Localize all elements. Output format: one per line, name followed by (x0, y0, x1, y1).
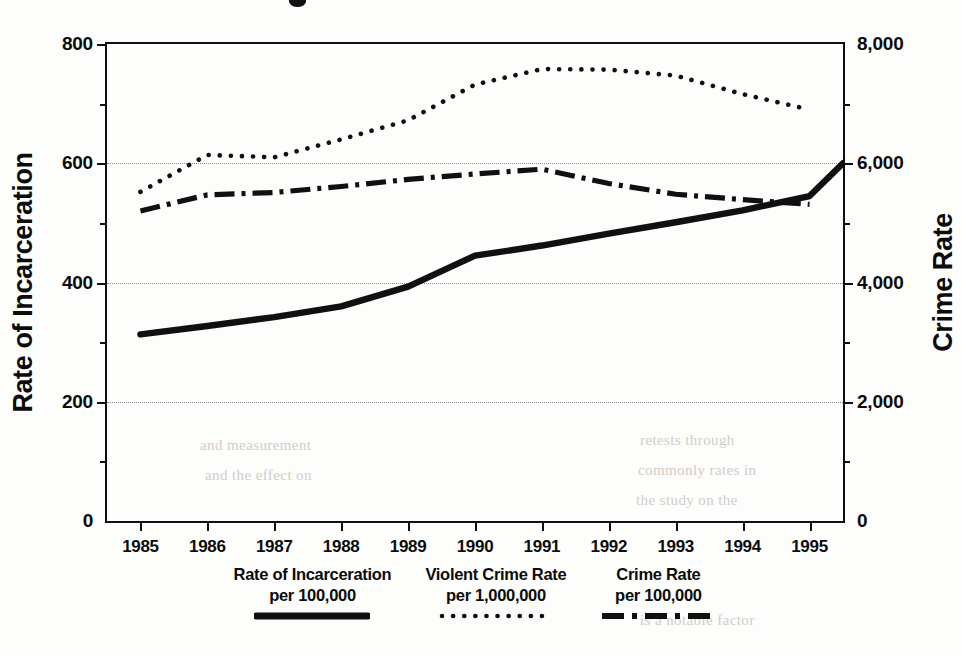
y-axis-right-title-text: Crime Rate (928, 213, 959, 352)
y-right-tick-5000 (843, 223, 850, 225)
legend-label-line2: per 100,000 (269, 586, 356, 605)
y-left-label-200: 200 (62, 391, 93, 413)
data-series-layer (107, 44, 843, 521)
y-left-tick-700 (100, 104, 107, 106)
y-right-tick-7000 (843, 104, 850, 106)
legend-label-line1: Crime Rate (616, 565, 700, 584)
x-label-1985: 1985 (122, 537, 159, 557)
x-label-1990: 1990 (457, 537, 494, 557)
y-left-tick-100 (100, 461, 107, 463)
legend-label-line1: Violent Crime Rate (425, 565, 566, 584)
y-axis-right-title: Crime Rate (926, 42, 960, 523)
y-left-tick-200 (97, 402, 107, 404)
y-left-label-800: 800 (62, 33, 93, 55)
x-tick-1992 (609, 521, 611, 531)
y-right-tick-3000 (843, 342, 850, 344)
x-label-1994: 1994 (724, 537, 761, 557)
series-rate-of-incarceration-line (140, 163, 843, 334)
x-tick-1991 (542, 521, 544, 531)
chart-legend: Rate of Incarceration per 100,000 Violen… (105, 565, 845, 621)
x-label-1991: 1991 (524, 537, 561, 557)
y-right-tick-2000 (843, 402, 853, 404)
legend-item-violent-crime-rate: Violent Crime Rate per 1,000,000 (425, 565, 566, 621)
y-right-label-4000: 4,000 (857, 272, 904, 294)
y-left-label-600: 600 (62, 152, 93, 174)
y-left-tick-500 (100, 223, 107, 225)
x-label-1988: 1988 (323, 537, 360, 557)
x-label-1989: 1989 (390, 537, 427, 557)
chart-figure: Rate of Incarceration Crime Rate 800 600… (0, 0, 962, 655)
y-right-label-6000: 6,000 (857, 152, 904, 174)
x-tick-1986 (207, 521, 209, 531)
series-crime-rate-line (140, 169, 809, 211)
y-right-tick-6000 (843, 163, 853, 165)
x-tick-1995 (810, 521, 812, 531)
series-violent-crime-rate-line (140, 69, 809, 192)
legend-swatch-solid (254, 611, 370, 621)
x-tick-1985 (140, 521, 142, 531)
y-right-tick-4000 (843, 283, 853, 285)
x-label-1992: 1992 (591, 537, 628, 557)
y-right-label-8000: 8,000 (857, 33, 904, 55)
y-axis-left-title-text: Rate of Incarceration (8, 152, 39, 412)
x-tick-1990 (475, 521, 477, 531)
plot-area: 800 600 400 200 0 8,000 6,000 4,000 2,00… (105, 42, 845, 523)
legend-item-crime-rate: Crime Rate per 100,000 (600, 565, 716, 621)
y-axis-left-title: Rate of Incarceration (6, 42, 40, 523)
legend-item-rate-of-incarceration: Rate of Incarceration per 100,000 (234, 565, 392, 621)
legend-swatch-dashdot (600, 611, 716, 621)
x-tick-1988 (341, 521, 343, 531)
y-right-label-0: 0 (857, 510, 867, 532)
legend-label-line2: per 1,000,000 (446, 586, 546, 605)
x-label-1987: 1987 (256, 537, 293, 557)
y-left-tick-600 (97, 163, 107, 165)
x-tick-1987 (274, 521, 276, 531)
x-label-1993: 1993 (657, 537, 694, 557)
legend-swatch-dotted (438, 611, 554, 621)
y-right-label-2000: 2,000 (857, 391, 904, 413)
y-left-label-400: 400 (62, 272, 93, 294)
legend-label-line2: per 100,000 (615, 586, 702, 605)
y-left-tick-400 (97, 283, 107, 285)
y-left-tick-800 (97, 44, 107, 46)
x-tick-1989 (408, 521, 410, 531)
x-tick-1994 (743, 521, 745, 531)
x-tick-1993 (676, 521, 678, 531)
y-left-label-0: 0 (83, 510, 93, 532)
x-label-1995: 1995 (791, 537, 828, 557)
y-right-tick-1000 (843, 461, 850, 463)
legend-label-line1: Rate of Incarceration (234, 565, 392, 584)
y-left-tick-300 (100, 342, 107, 344)
x-label-1986: 1986 (189, 537, 226, 557)
